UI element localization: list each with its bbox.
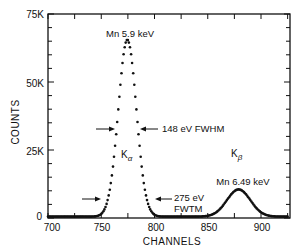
x-ticks	[48, 14, 288, 218]
fwtm-label-line1: 275 eV	[174, 192, 205, 203]
x-tick-850: 850	[201, 222, 218, 233]
x-axis-title: CHANNELS	[143, 236, 201, 247]
y-ticks	[48, 14, 290, 218]
y-axis-title: COUNTS	[10, 99, 21, 144]
k-alpha-label: Kα	[121, 149, 133, 163]
y-tick-75k: 75K	[26, 9, 44, 20]
x-tick-800: 800	[148, 222, 165, 233]
y-tick-50k: 50K	[26, 78, 44, 89]
y-tick-0: 0	[36, 211, 42, 222]
spectrum-chart: 75K 50K 25K 0 700 750 800 850 900 CHANNE…	[0, 0, 301, 250]
k-beta-label: Kβ	[231, 148, 243, 162]
fwtm-label-line2: FWTM	[174, 203, 203, 214]
x-tick-900: 900	[254, 222, 271, 233]
plot-frame	[48, 14, 290, 218]
ka-peak-label: Mn 5.9 keV	[106, 28, 155, 39]
kb-peak-label: Mn 6.49 keV	[216, 176, 270, 187]
x-tick-700: 700	[44, 222, 61, 233]
fwtm-arrows	[82, 197, 172, 202]
y-tick-25k: 25K	[26, 146, 44, 157]
x-tick-750: 750	[94, 222, 111, 233]
fwhm-arrows	[96, 127, 158, 132]
fwhm-label: 148 eV FWHM	[162, 123, 224, 134]
